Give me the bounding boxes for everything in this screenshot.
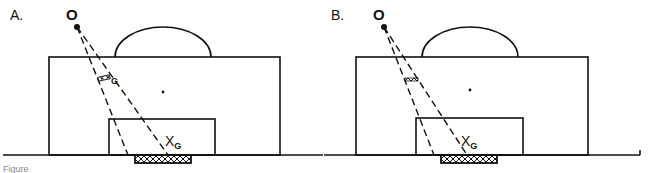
observer-point <box>381 24 387 30</box>
figure-canvas: A. O G XG B. <box>0 0 648 173</box>
penalty-arc <box>115 27 211 57</box>
angle-marker-icon <box>405 78 418 81</box>
marker-label: G <box>111 76 118 86</box>
observer-label: O <box>66 6 78 23</box>
goal-area <box>109 119 215 155</box>
observer-label: O <box>373 6 385 23</box>
goal-net-icon <box>441 155 497 163</box>
angle-marker-icon <box>98 75 111 81</box>
observer-point <box>74 24 80 30</box>
goal-net-icon <box>135 155 191 163</box>
panel-b-label: B. <box>331 7 344 23</box>
target-label: XG <box>461 133 477 151</box>
penalty-spot <box>162 91 165 94</box>
penalty-spot <box>469 89 472 92</box>
target-label: XG <box>165 133 181 151</box>
panel-b: B. O XG <box>324 6 640 163</box>
sight-line-left <box>77 27 128 155</box>
sight-line-right <box>77 27 168 155</box>
figure-caption: Figure <box>3 164 29 173</box>
panel-a: A. O G XG <box>3 6 323 163</box>
panel-a-label: A. <box>10 7 23 23</box>
sight-line-left <box>384 27 434 155</box>
penalty-arc <box>422 27 518 57</box>
